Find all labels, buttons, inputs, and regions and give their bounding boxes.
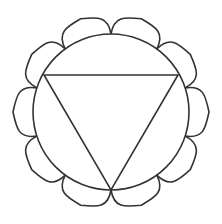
lotus-drawing [0,0,222,224]
inverted-triangle [44,75,178,190]
lotus-petal [111,175,160,206]
lotus-petals [13,18,209,206]
inner-circle [33,34,189,190]
lotus-petal [157,42,197,88]
lotus-petal [26,42,66,88]
lotus-petal [62,175,111,206]
lotus-petal [157,136,197,182]
lotus-petal [26,136,66,182]
lotus-petal [111,18,160,49]
lotus-petal [62,18,111,49]
